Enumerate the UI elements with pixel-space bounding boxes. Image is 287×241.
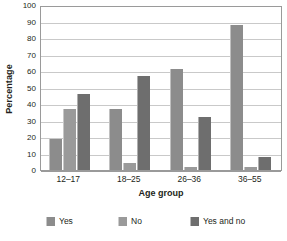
bar [123,163,136,170]
bar-group [49,7,90,170]
legend-entry[interactable]: Yes and no [190,214,245,228]
bar [170,69,183,170]
x-axis-tick-label: 12–17 [56,173,80,185]
y-axis-tick-label: 60 [27,68,36,76]
bar [137,76,150,170]
bar [184,167,197,170]
x-axis-tick-label: 18–25 [117,173,141,185]
bar [258,157,271,170]
y-axis-tick-label: 100 [23,2,36,10]
y-axis-tick-label: 70 [27,52,36,60]
plot-area [40,6,282,171]
legend-entry[interactable]: Yes [46,214,73,228]
legend-entry[interactable]: No [118,214,142,228]
bar-group [230,7,271,170]
legend-swatch-icon [118,217,127,226]
x-axis-tick-label: 26–36 [177,173,201,185]
bar [109,109,122,170]
legend-label: No [131,217,142,226]
x-axis-tick-label: 36–55 [238,173,262,185]
y-axis-tick-label: 20 [27,134,36,142]
legend-swatch-icon [46,217,55,226]
y-axis-tick-label: 80 [27,35,36,43]
y-axis-tick-labels: 0102030405060708090100 [14,6,38,171]
bar [230,25,243,170]
y-axis-tick-label: 10 [27,151,36,159]
y-axis-tick-label: 30 [27,118,36,126]
axis-baseline [41,171,281,172]
legend-swatch-icon [190,217,199,226]
bar [63,109,76,170]
chart-legend: YesNoYes and no [40,214,282,228]
bar [198,117,211,170]
bar [244,167,257,170]
legend-label: Yes and no [203,217,245,226]
bar-group [109,7,150,170]
y-axis-tick-label: 0 [32,167,36,175]
legend-label: Yes [59,217,73,226]
y-axis-tick-label: 50 [27,85,36,93]
bar-group [170,7,211,170]
bar-chart-figure: Percentage 0102030405060708090100 12–171… [0,0,287,241]
bar [49,139,62,170]
x-axis-tick-labels: 12–1718–2526–3636–55 [40,173,282,187]
bar [77,94,90,170]
x-axis-title: Age group [40,188,282,198]
y-axis-title-label: Percentage [4,64,14,114]
y-axis-tick-label: 90 [27,19,36,27]
y-axis-tick-label: 40 [27,101,36,109]
bars-layer [41,7,281,170]
